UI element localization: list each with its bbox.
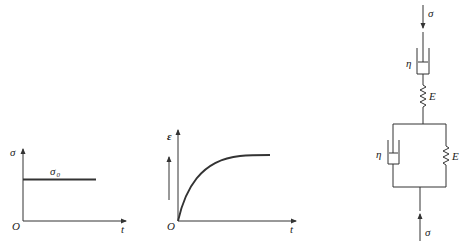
x-axis-label: t [290, 223, 294, 235]
top-load-label: σ [428, 7, 434, 19]
bottom-load-label: σ [425, 226, 431, 238]
origin-label: O [12, 220, 20, 232]
stress-level-label: σ0 [50, 165, 60, 179]
creep-diagram: σ O t σ0 ε O t σ η E η [0, 0, 466, 244]
y-axis-label: ε [167, 130, 172, 142]
y-axis-label: σ [10, 146, 16, 158]
strain-time-plot: ε O t [167, 130, 296, 235]
origin-label: O [167, 220, 175, 232]
creep-curve [178, 155, 270, 221]
parallel-dashpot-label: η [376, 148, 381, 160]
x-axis-label: t [121, 223, 125, 235]
stress-time-plot: σ O t σ0 [10, 146, 126, 235]
parallel-spring-label: E [451, 150, 459, 162]
series-spring-icon [420, 74, 426, 124]
parallel-spring-icon [443, 124, 449, 187]
series-dashpot-label: η [406, 57, 411, 69]
burgers-model: σ η E η E σ [376, 5, 459, 241]
series-spring-label: E [428, 90, 436, 102]
